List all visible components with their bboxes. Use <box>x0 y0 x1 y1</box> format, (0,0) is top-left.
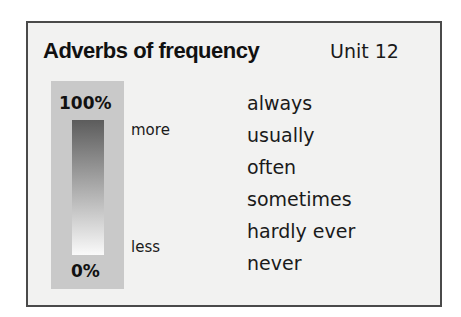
adverb-item: usually <box>247 119 355 151</box>
frequency-gradient-bar <box>72 120 104 255</box>
scale-top-label: 100% <box>59 93 112 113</box>
card-title: Adverbs of frequency <box>43 38 259 64</box>
adverb-list: always usually often sometimes hardly ev… <box>247 87 355 279</box>
adverb-item: often <box>247 151 355 183</box>
adverb-item: always <box>247 87 355 119</box>
unit-label: Unit 12 <box>330 40 399 62</box>
adverb-item: never <box>247 247 355 279</box>
scale-bottom-label: 0% <box>71 261 100 281</box>
adverb-item: hardly ever <box>247 215 355 247</box>
more-label: more <box>131 121 170 139</box>
less-label: less <box>131 238 160 256</box>
adverb-item: sometimes <box>247 183 355 215</box>
